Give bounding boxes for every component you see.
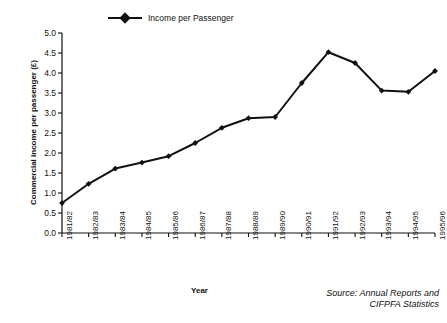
- data-point-marker: [139, 160, 145, 166]
- x-tick-label: 1995/96: [439, 211, 447, 240]
- x-tick-label: 1983/84: [119, 211, 127, 240]
- data-point-marker: [246, 115, 252, 121]
- plot-area: [0, 0, 447, 323]
- x-tick-label: 1981/82: [66, 211, 74, 240]
- source-note: Source: Annual Reports and CIFPFA Statis…: [209, 288, 439, 311]
- line-chart: Income per Passenger Commercial income p…: [0, 0, 447, 323]
- x-tick-label: 1990/91: [305, 211, 313, 240]
- x-tick-label: 1982/83: [92, 211, 100, 240]
- x-tick-label: 1984/85: [145, 211, 153, 240]
- series-line: [62, 52, 435, 203]
- x-tick-label: 1991/92: [332, 211, 340, 240]
- x-tick-label: 1989/90: [279, 211, 287, 240]
- x-tick-label: 1987/88: [225, 211, 233, 240]
- x-tick-label: 1986/87: [199, 211, 207, 240]
- x-tick-label: 1985/86: [172, 211, 180, 240]
- source-note-line1: Source: Annual Reports and: [209, 288, 439, 299]
- x-tick-label: 1992/93: [359, 211, 367, 240]
- x-tick-label: 1988/89: [252, 211, 260, 240]
- x-tick-label: 1994/95: [412, 211, 420, 240]
- x-tick-label: 1993/94: [385, 211, 393, 240]
- x-axis-title-text: Year: [191, 286, 208, 295]
- source-note-line2: CIFPFA Statistics: [209, 299, 439, 310]
